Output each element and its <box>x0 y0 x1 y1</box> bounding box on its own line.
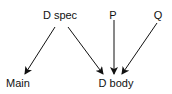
arrow-dspec-to-main <box>25 27 55 74</box>
arrow-dspec-to-dbody <box>68 27 103 74</box>
node-q: Q <box>154 9 163 21</box>
node-main: Main <box>6 77 30 89</box>
node-p: P <box>109 9 116 21</box>
node-dspec: D spec <box>43 9 77 21</box>
node-dbody: D body <box>99 77 134 89</box>
arrow-q-to-dbody <box>122 23 157 74</box>
